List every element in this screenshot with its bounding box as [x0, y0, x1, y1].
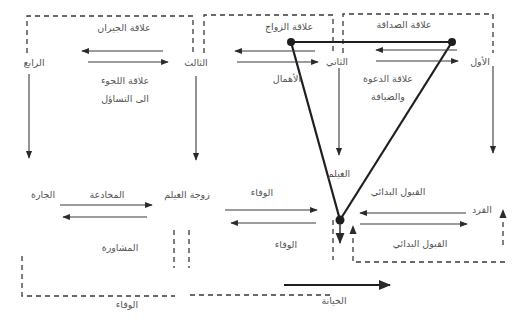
label-third: الثالث — [184, 57, 208, 68]
label-refuge-line1: علاقة اللجوء — [101, 75, 149, 86]
label-second: الثاني — [326, 56, 348, 67]
relationship-triangle — [287, 38, 456, 243]
triangle-left-edge — [291, 42, 340, 220]
top-row-arrows — [82, 50, 458, 62]
dashed-frames — [22, 14, 505, 296]
label-loyalty-bottom: الوفاء — [275, 239, 297, 250]
label-deception: المخادعة — [89, 189, 124, 200]
label-loyalty-top: الوفاء — [251, 187, 273, 198]
node-dot-heron — [336, 216, 345, 225]
label-invitation-line1: علاقة الدعوة — [363, 73, 413, 84]
label-consultation: المشاورة — [102, 242, 139, 253]
relation-labels: علاقة الجيران علاقة اللجوء الى التساؤل ع… — [89, 19, 447, 310]
label-marriage-relation: علاقة الزواج — [265, 21, 313, 33]
label-heron: الغيلم — [328, 168, 350, 180]
label-monkey: القرد — [472, 204, 492, 215]
label-betrayal: الخيانة — [321, 295, 346, 306]
label-loyalty-dashed: الوفاء — [116, 299, 138, 310]
vertical-arrows — [29, 66, 493, 160]
label-initial-acceptance-bottom: القبول البدائي — [393, 238, 448, 249]
node-dot-marriage — [287, 38, 295, 46]
node-dot-friendship — [448, 38, 456, 46]
label-neglect: الأهمال — [273, 73, 301, 84]
label-invitation-line2: والضيافة — [371, 91, 405, 102]
label-initial-acceptance-top: القبول البدائي — [371, 186, 426, 197]
dashed-frame-bottom-left — [22, 256, 175, 296]
label-first: الأول — [470, 56, 490, 67]
label-refuge-line2: الى التساؤل — [101, 93, 149, 104]
relationship-diagram: الرابع الثالث الثاني الأول الجارة زوجة ا… — [0, 0, 515, 319]
label-neighbors-relation: علاقة الجيران — [97, 22, 150, 33]
label-friendship-relation: علاقة الصداقة — [376, 19, 431, 30]
label-fourth: الرابع — [23, 57, 44, 68]
label-heron-wife: زوجة الغيلم — [164, 189, 210, 201]
label-neighbor-f: الجارة — [31, 189, 55, 200]
